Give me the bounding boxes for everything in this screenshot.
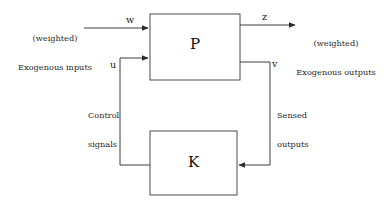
signal-line-u: [120, 58, 150, 165]
exogenous-inputs-line1: (weighted): [8, 34, 102, 44]
exogenous-inputs-line2: Exogenous inputs: [8, 63, 102, 73]
controller-block-label: K: [150, 154, 237, 172]
sensed-outputs-line2: outputs: [277, 140, 309, 150]
control-signals-line2: signals: [88, 140, 119, 150]
signal-label-u: u: [110, 59, 116, 70]
exogenous-outputs-annotation: (weighted) Exogenous outputs: [290, 20, 382, 97]
signal-label-w: w: [126, 14, 134, 25]
sensed-outputs-annotation: Sensed outputs: [277, 92, 309, 169]
exogenous-outputs-line2: Exogenous outputs: [290, 68, 382, 78]
exogenous-outputs-line1: (weighted): [290, 39, 382, 49]
signal-label-z: z: [262, 11, 267, 22]
plant-block-label: P: [150, 36, 240, 54]
exogenous-inputs-annotation: (weighted) Exogenous inputs: [8, 15, 102, 92]
signal-label-v: v: [272, 58, 277, 69]
sensed-outputs-line1: Sensed: [277, 111, 309, 121]
control-signals-line1: Control: [88, 111, 119, 121]
control-signals-annotation: Control signals: [88, 92, 119, 169]
block-diagram-canvas: P K w z u v (weighted) Exogenous inputs …: [0, 0, 384, 202]
signal-line-v: [239, 62, 270, 165]
